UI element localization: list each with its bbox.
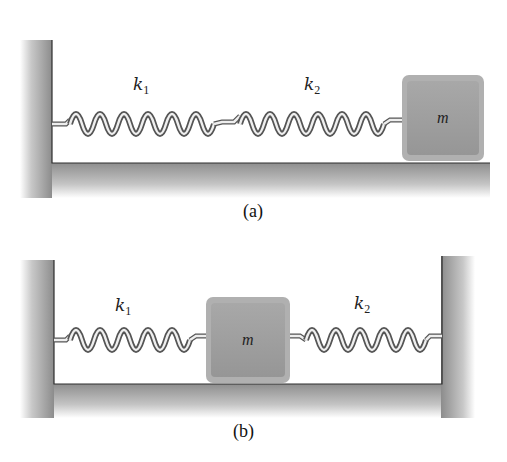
floor xyxy=(20,384,475,418)
wall-right xyxy=(441,256,475,418)
wall-left xyxy=(20,260,54,418)
mass-block: m xyxy=(206,297,290,383)
label-k1: k1 xyxy=(133,74,149,97)
floor xyxy=(20,163,490,198)
spring-connector xyxy=(214,116,240,124)
label-k2: k2 xyxy=(304,74,320,97)
spring-k2 xyxy=(240,114,402,134)
mass-label: m xyxy=(242,331,254,348)
spring-k2 xyxy=(290,330,442,350)
spring-mass-diagram: m k1 k2 (a) m xyxy=(0,0,507,462)
spring-k1 xyxy=(54,330,206,350)
spring-k1 xyxy=(52,114,214,134)
mass-block: m xyxy=(402,75,484,161)
mass-label: m xyxy=(437,109,449,126)
panel-b: m k1 k2 (b) xyxy=(20,256,475,442)
caption-b: (b) xyxy=(233,421,254,442)
label-k1: k1 xyxy=(115,295,131,318)
wall-left xyxy=(20,40,52,198)
panel-a: m k1 k2 (a) xyxy=(20,40,490,222)
label-k2: k2 xyxy=(354,293,370,316)
caption-a: (a) xyxy=(243,201,263,222)
